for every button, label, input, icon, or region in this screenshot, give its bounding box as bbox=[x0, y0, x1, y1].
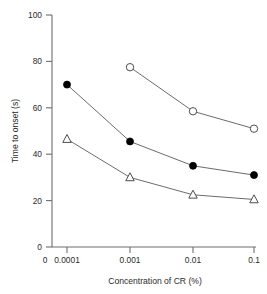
data-point-filled-circle-series-0.1 bbox=[251, 172, 258, 179]
y-tick-label-0: 0 bbox=[37, 242, 42, 252]
data-point-open-circle-series-0.1 bbox=[250, 125, 257, 132]
series-line-filled-circle-series bbox=[67, 85, 254, 175]
data-point-filled-circle-series-0.001 bbox=[127, 138, 134, 145]
chart-svg: 100 80 60 40 20 0 Time to onset (s) 0 0.… bbox=[0, 0, 267, 294]
series-open-triangle-series bbox=[63, 135, 258, 203]
series-open-circle-series bbox=[126, 63, 257, 132]
plot-layer bbox=[63, 63, 258, 202]
series-line-open-triangle-series bbox=[67, 139, 254, 199]
series-filled-circle-series bbox=[64, 81, 258, 178]
x-tick-label-0.01: 0.01 bbox=[185, 255, 202, 265]
series-line-open-circle-series bbox=[130, 67, 254, 128]
y-tick-label-80: 80 bbox=[33, 56, 43, 66]
data-point-filled-circle-series-0.0001 bbox=[64, 81, 71, 88]
x-tick-label-0: 0 bbox=[43, 255, 48, 265]
y-tick-label-20: 20 bbox=[33, 196, 43, 206]
y-tick-label-40: 40 bbox=[33, 149, 43, 159]
data-point-open-triangle-series-0.0001 bbox=[63, 135, 71, 143]
x-tick-label-0.1: 0.1 bbox=[248, 255, 260, 265]
y-tick-label-100: 100 bbox=[28, 10, 42, 20]
y-axis: 100 80 60 40 20 0 Time to onset (s) bbox=[10, 10, 52, 252]
x-tick-label-0.001: 0.001 bbox=[120, 255, 141, 265]
chart-figure: 100 80 60 40 20 0 Time to onset (s) 0 0.… bbox=[0, 0, 267, 294]
x-tick-label-0.0001: 0.0001 bbox=[54, 255, 80, 265]
x-axis: 0 0.0001 0.001 0.01 0.1 Concentration of… bbox=[43, 247, 260, 286]
y-tick-label-60: 60 bbox=[33, 103, 43, 113]
data-point-open-circle-series-0.001 bbox=[126, 63, 133, 70]
x-axis-title: Concentration of CR (%) bbox=[108, 276, 202, 286]
data-point-open-triangle-series-0.001 bbox=[126, 173, 134, 181]
y-axis-title: Time to onset (s) bbox=[10, 99, 20, 163]
data-point-open-circle-series-0.01 bbox=[189, 108, 196, 115]
data-point-filled-circle-series-0.01 bbox=[190, 162, 197, 169]
